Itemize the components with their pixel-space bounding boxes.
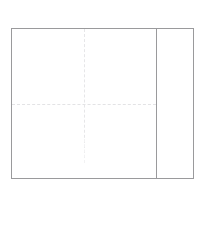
main-drawing-area[interactable] (12, 29, 156, 178)
drawing-border-frame[interactable] (11, 28, 194, 179)
horizontal-centerline-guide (12, 104, 156, 105)
vertical-centerline-guide-lower (84, 139, 85, 163)
side-title-block-panel[interactable] (157, 29, 193, 178)
vertical-centerline-guide (84, 29, 85, 163)
drawing-canvas (0, 0, 210, 235)
